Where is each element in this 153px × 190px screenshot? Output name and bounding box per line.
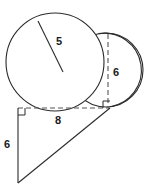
geometry-figure: 5 6 8 6 — [0, 0, 153, 190]
vertical-leg-label: 6 — [4, 139, 10, 150]
hypotenuse — [18, 108, 110, 183]
large-circle — [6, 13, 104, 111]
small-circle-visible-arc — [99, 33, 142, 107]
small-circle-diameter-label: 6 — [113, 67, 119, 78]
radius-label: 5 — [56, 36, 62, 47]
geometry-canvas — [0, 0, 153, 190]
horizontal-leg-label: 8 — [55, 115, 61, 126]
right-angle-mark-left — [18, 108, 25, 115]
